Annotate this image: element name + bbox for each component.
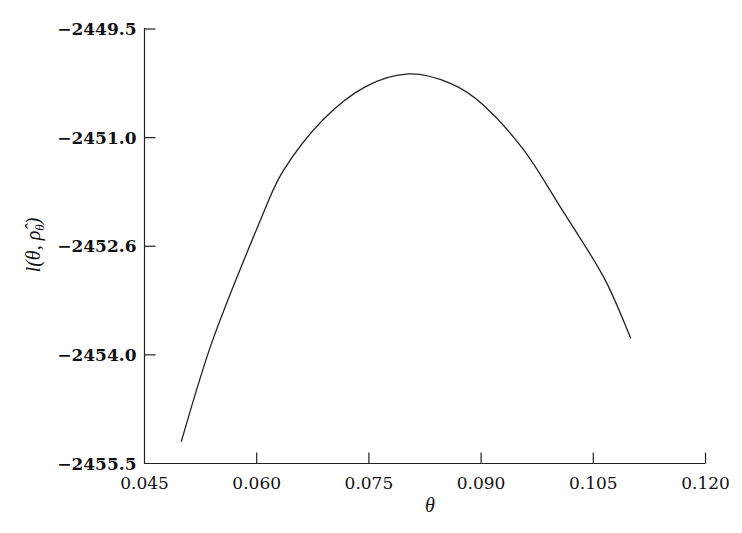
y-title-close: ) <box>22 217 45 225</box>
x-tick-label: 0.045 <box>120 473 169 493</box>
likelihood-curve <box>181 74 631 442</box>
x-tick-label: 0.090 <box>457 473 506 493</box>
y-title-main: l(θ, <box>22 240 45 272</box>
y-ticks: −2449.5−2451.0−2452.6−2454.0−2455.5 <box>57 19 155 474</box>
y-tick-label: −2449.5 <box>57 19 136 39</box>
y-axis-title: l(θ, ρ̂θ) <box>22 217 47 272</box>
y-tick-label: −2451.0 <box>57 128 136 148</box>
x-ticks: 0.0450.0600.0750.0900.1050.120 <box>120 453 730 493</box>
x-axis-title: θ <box>425 494 435 516</box>
x-tick-label: 0.105 <box>569 473 618 493</box>
x-tick-label: 0.120 <box>681 473 730 493</box>
svg-text:l(θ, ρ̂θ): l(θ, ρ̂θ) <box>22 217 47 272</box>
y-tick-label: −2455.5 <box>57 454 136 474</box>
y-tick-label: −2454.0 <box>57 345 136 365</box>
chart: −2449.5−2451.0−2452.6−2454.0−2455.5 0.04… <box>0 0 742 533</box>
axes <box>144 28 706 464</box>
x-tick-label: 0.075 <box>345 473 394 493</box>
y-tick-label: −2452.6 <box>57 236 136 256</box>
x-tick-label: 0.060 <box>232 473 281 493</box>
